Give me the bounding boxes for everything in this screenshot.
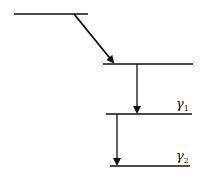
gamma1-symbol: γ <box>176 96 184 111</box>
gamma2-label: γ2 <box>176 148 189 165</box>
gamma2-symbol: γ <box>176 148 184 163</box>
gamma1-subscript: 1 <box>184 104 189 113</box>
gamma1-label: γ1 <box>176 96 189 113</box>
energy-level-diagram <box>0 0 201 177</box>
transition-arrow-diagonal <box>74 14 113 62</box>
gamma2-subscript: 2 <box>184 156 189 165</box>
